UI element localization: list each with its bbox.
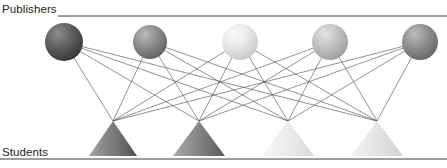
publishers-label: Publishers <box>2 3 57 15</box>
edge-p4-s3 <box>288 56 323 121</box>
diagram-canvas: Publishers Students <box>0 0 447 168</box>
edge-p2-s4 <box>164 47 377 121</box>
publisher-node-2[interactable] <box>133 25 167 59</box>
students-label: Students <box>2 146 48 158</box>
edge-p3-s4 <box>253 50 377 121</box>
edge-p5-s4 <box>377 56 413 121</box>
publisher-node-1[interactable] <box>45 23 83 61</box>
edge-p3-s2 <box>199 56 233 121</box>
student-node-2[interactable] <box>173 121 225 156</box>
publisher-node-3[interactable] <box>222 24 258 60</box>
edge-p1-s1 <box>73 56 113 121</box>
student-node-4[interactable] <box>351 121 403 156</box>
publisher-node-5[interactable] <box>402 24 438 60</box>
publishers-node-group <box>45 23 438 61</box>
edge-p4-s4 <box>338 55 377 121</box>
student-node-1[interactable] <box>89 121 137 156</box>
edge-p2-s3 <box>163 49 288 121</box>
student-node-3[interactable] <box>262 121 314 156</box>
publisher-node-4[interactable] <box>312 24 348 60</box>
students-node-group <box>89 121 403 156</box>
bipartite-graph-figure: Publishers Students <box>0 0 447 168</box>
